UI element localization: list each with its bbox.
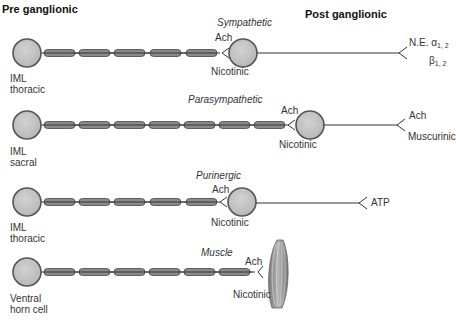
post-ganglionic-header: Post ganglionic [305, 8, 387, 20]
muscle-fiber-icon [269, 240, 289, 308]
post-transmitter-label: Ach [409, 110, 426, 121]
origin-label: IML thoracic [10, 73, 45, 95]
pre-transmitter-label: Ach [212, 184, 229, 195]
post-receptor-label: β1, 2 [429, 55, 446, 69]
pre-transmitter-label: Ach [245, 256, 262, 267]
pre-receptor-label: Nicotinic [279, 139, 317, 150]
synapse-fork-icon [220, 197, 227, 207]
post-transmitter-label: N.E. α1, 2 [409, 37, 449, 51]
pre-receptor-label: Nicotinic [211, 217, 249, 228]
origin-label: IML thoracic [10, 222, 45, 244]
ganglion-soma [296, 111, 324, 139]
pathway-title-muscle: Muscle [201, 247, 233, 258]
origin-label: IML sacral [10, 146, 37, 168]
preganglionic-soma [13, 188, 41, 216]
pre-receptor-label: Nicotinic [233, 289, 271, 300]
pathway-title-purinergic: Purinergic [196, 170, 241, 181]
effector-fork-icon [399, 47, 407, 59]
effector-fork-icon [397, 119, 405, 131]
preganglionic-soma [13, 39, 41, 67]
parasympathetic-pathway [13, 111, 405, 139]
pre-receptor-label: Nicotinic [211, 66, 249, 77]
purinergic-pathway [13, 188, 367, 216]
origin-label: Ventral horn cell [10, 293, 48, 315]
sympathetic-pathway [13, 39, 407, 67]
effector-fork-icon [359, 197, 367, 209]
synapse-fork-icon [222, 48, 229, 58]
synapse-fork-icon [288, 120, 295, 130]
ganglion-soma [229, 39, 257, 67]
ganglion-soma [228, 188, 256, 216]
post-receptor-label: Muscurinic [408, 131, 456, 142]
preganglionic-soma [13, 111, 41, 139]
pre-ganglionic-header: Pre ganglionic [2, 3, 78, 15]
post-transmitter-label: ATP [371, 197, 390, 208]
motor-neuron-soma [13, 258, 41, 286]
pre-transmitter-label: Ach [215, 32, 232, 43]
pathway-title-parasympathetic: Parasympathetic [188, 94, 262, 105]
pre-transmitter-label: Ach [281, 105, 298, 116]
pathway-title-sympathetic: Sympathetic [217, 17, 272, 28]
neuromuscular-junction-icon [258, 266, 263, 278]
